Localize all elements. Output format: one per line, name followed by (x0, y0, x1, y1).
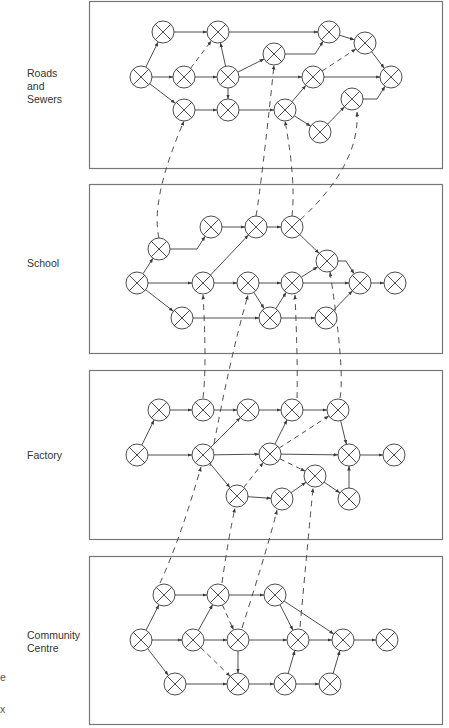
activity-arrow (210, 463, 230, 487)
activity-arrow (301, 267, 317, 277)
event-node-icon (376, 629, 398, 651)
network-diagram (0, 0, 449, 728)
cross-project-dependency (256, 65, 274, 216)
activity-arrow (211, 235, 249, 275)
event-node-icon (304, 465, 326, 487)
event-node-icon (274, 99, 296, 121)
event-node-icon (130, 66, 152, 88)
event-node-icon (217, 99, 239, 121)
cross-project-dependency (222, 508, 235, 583)
event-node-icon (245, 216, 267, 238)
cross-project-dependency (203, 295, 205, 398)
event-node-icon (217, 66, 239, 88)
event-node-icon (383, 444, 405, 466)
event-node-icon (259, 443, 281, 465)
activity-arrow (143, 258, 153, 274)
cross-project-dependency (295, 295, 297, 398)
activity-arrow (146, 290, 174, 311)
event-node-icon (264, 584, 286, 606)
event-node-icon (263, 43, 285, 65)
event-node-icon (380, 66, 402, 88)
event-node-icon (309, 121, 331, 143)
event-node-icon (327, 399, 349, 421)
activity-arrow (248, 497, 271, 499)
activity-arrow (142, 420, 154, 445)
dependency-arrow (222, 605, 233, 630)
event-node-icon (302, 66, 324, 88)
activity-arrow (276, 292, 286, 308)
activity-arrow (333, 651, 340, 674)
activity-arrow (334, 291, 353, 310)
activity-arrow (340, 35, 355, 40)
activity-arrow (284, 601, 334, 634)
dependency-links (157, 65, 357, 628)
event-node-icon (237, 399, 259, 421)
activity-arrow (254, 292, 264, 308)
activity-arrow (292, 85, 306, 101)
dependency-arrow (280, 459, 305, 471)
cross-project-dependency (160, 467, 201, 583)
activity-arrow (148, 649, 169, 676)
activity-arrow (338, 261, 354, 274)
event-node-icon (126, 272, 148, 294)
event-node-icon (152, 21, 174, 43)
cross-project-dependency (330, 272, 341, 398)
activity-arrow (291, 482, 306, 492)
event-node-icon (171, 307, 193, 329)
activity-arrow (211, 418, 240, 447)
event-node-icon (354, 32, 376, 54)
event-node-icon (227, 629, 249, 651)
event-node-icon (192, 444, 214, 466)
event-nodes (126, 21, 406, 695)
event-node-icon (192, 399, 214, 421)
event-node-icon (319, 673, 341, 695)
dependency-arrow (191, 41, 212, 68)
event-node-icon (259, 307, 281, 329)
event-node-icon (338, 444, 360, 466)
event-node-icon (281, 399, 303, 421)
event-node-icon (338, 488, 360, 510)
activity-arrow (341, 421, 347, 445)
event-node-icon (148, 238, 170, 260)
activity-arrow (146, 605, 159, 630)
cross-project-dependency (300, 488, 313, 627)
event-node-icon (271, 488, 293, 510)
event-node-icon (384, 272, 406, 294)
event-node-icon (341, 88, 363, 110)
activity-arrow (220, 43, 225, 67)
event-node-icon (281, 272, 303, 294)
event-node-icon (227, 673, 249, 695)
event-node-icon (164, 673, 186, 695)
activity-arrow (280, 605, 293, 630)
dependency-arrow (244, 463, 263, 488)
activity-arrow (214, 454, 259, 455)
event-node-icon (349, 272, 371, 294)
activity-arrow (281, 454, 338, 455)
event-node-icon (274, 673, 296, 695)
event-node-icon (130, 629, 152, 651)
event-node-icon (182, 629, 204, 651)
event-node-icon (318, 21, 340, 43)
cross-project-dependency (157, 121, 184, 238)
cross-project-dependency (242, 510, 277, 628)
event-node-icon (316, 250, 338, 272)
activity-arrow (238, 59, 264, 72)
activity-arrow (170, 236, 205, 249)
activity-arrow (294, 116, 310, 126)
activity-arrows (142, 32, 385, 684)
activity-arrow (300, 235, 319, 254)
activity-arrow (372, 52, 385, 69)
cross-project-dependency (210, 295, 248, 466)
event-node-icon (207, 21, 229, 43)
activity-arrow (288, 651, 295, 674)
event-node-icon (281, 216, 303, 238)
activity-arrow (328, 107, 345, 124)
dependency-arrow (322, 49, 356, 71)
event-node-icon (126, 444, 148, 466)
event-node-icon (287, 629, 309, 651)
event-node-icon (207, 584, 229, 606)
dependency-arrow (201, 648, 230, 677)
activity-arrow (150, 84, 176, 104)
event-node-icon (226, 485, 248, 507)
event-node-icon (173, 99, 195, 121)
